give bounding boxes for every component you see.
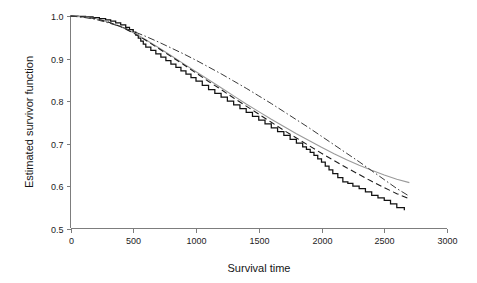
y-tick-label: 0.9 (51, 55, 64, 65)
x-tick-label: 500 (126, 236, 141, 246)
x-tick-label: 2500 (374, 236, 394, 246)
y-tick-label: 1.0 (51, 12, 64, 22)
x-tick-label: 2000 (312, 236, 332, 246)
x-tick-label: 1000 (186, 236, 206, 246)
y-axis-title: Estimated survivor function (23, 56, 35, 188)
x-tick-label: 3000 (437, 236, 457, 246)
y-tick-label: 0.6 (51, 182, 64, 192)
survival-chart: 0.50.60.70.80.91.0 050010001500200025003… (0, 0, 477, 283)
y-tick-label: 0.5 (51, 225, 64, 235)
x-axis-title: Survival time (228, 262, 291, 274)
x-tick-label: 0 (69, 236, 74, 246)
y-tick-label: 0.8 (51, 97, 64, 107)
x-tick-label: 1500 (249, 236, 269, 246)
y-tick-label: 0.7 (51, 140, 64, 150)
